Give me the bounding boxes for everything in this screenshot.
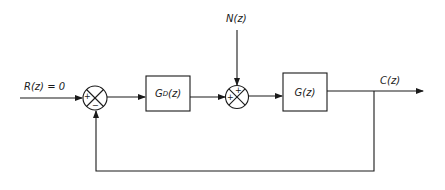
sj2-top-plus-sign: +	[235, 87, 242, 95]
disturbance-label: N(z)	[226, 14, 247, 24]
input-label: R(z) = 0	[24, 82, 65, 92]
plant-block-label: G(z)	[283, 73, 327, 111]
sj1-plus-sign: +	[84, 93, 91, 101]
block-diagram	[0, 0, 445, 190]
sj2-left-plus-sign: +	[227, 94, 234, 102]
plant-main: G	[295, 87, 303, 98]
plant-arg: (z)	[302, 87, 315, 98]
controller-arg: (z)	[168, 88, 181, 99]
controller-block-label: GD(z)	[146, 76, 190, 111]
output-label: C(z)	[380, 76, 400, 86]
controller-main: G	[155, 88, 163, 99]
sj1-minus-sign: −	[92, 102, 99, 110]
